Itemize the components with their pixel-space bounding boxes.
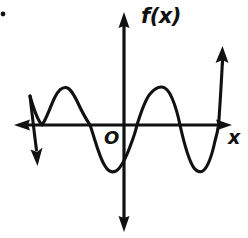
x-axis-label: x: [228, 128, 240, 147]
corner-speck-mark: [1, 12, 6, 17]
polynomial-curve-path: [30, 64, 222, 172]
function-curve: [30, 46, 229, 172]
origin-label: O: [104, 129, 119, 147]
x-axis-arrow-left: [14, 120, 30, 131]
y-axis: [119, 12, 130, 232]
y-axis-arrow-bottom: [119, 216, 130, 232]
y-axis-arrow-top: [119, 12, 130, 28]
function-label: f(x): [141, 6, 181, 27]
graph-figure: f(x) x O: [0, 0, 248, 238]
coordinate-plane-drawing: [0, 0, 248, 238]
